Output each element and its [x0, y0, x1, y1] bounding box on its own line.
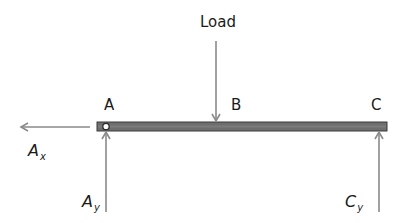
force-cy-subscript: y [357, 202, 363, 213]
point-c-label: C [371, 98, 381, 113]
free-body-diagram [0, 0, 405, 223]
force-cy-label: Cy [345, 194, 363, 213]
force-ax-label: Ax [28, 143, 46, 162]
load-label: Load [200, 15, 236, 30]
force-ax-subscript: x [40, 151, 46, 162]
point-a-label: A [104, 98, 114, 113]
force-ay-subscript: y [94, 202, 100, 213]
force-ay-label: Ay [82, 194, 100, 213]
pin-icon [103, 123, 109, 129]
beam [97, 122, 387, 131]
force-ay-symbol: A [82, 192, 93, 211]
force-ax-symbol: A [28, 141, 39, 160]
point-b-label: B [231, 98, 241, 113]
force-cy-symbol: C [345, 192, 356, 211]
